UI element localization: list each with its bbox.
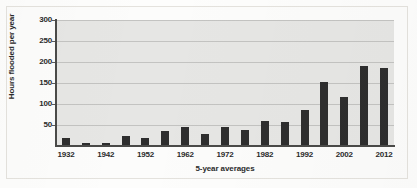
gridline-300 bbox=[56, 20, 394, 21]
gridline-200 bbox=[56, 62, 394, 63]
bar-1972 bbox=[221, 127, 229, 146]
x-tick-label-1932: 1932 bbox=[51, 150, 81, 159]
bar-1992 bbox=[301, 110, 309, 146]
bar-1987 bbox=[281, 122, 289, 146]
x-tick-label-1972: 1972 bbox=[210, 150, 240, 159]
x-tick-label-2002: 2002 bbox=[329, 150, 359, 159]
y-axis-ticks: 30025020015010050 bbox=[0, 0, 52, 188]
bar-1962 bbox=[181, 127, 189, 146]
x-tick-label-1992: 1992 bbox=[290, 150, 320, 159]
x-tick-label-1962: 1962 bbox=[170, 150, 200, 159]
x-axis-title: 5-year averages bbox=[56, 164, 394, 173]
plot-area bbox=[56, 20, 394, 146]
y-axis-line bbox=[55, 19, 57, 147]
y-tick-label-50: 50 bbox=[6, 121, 52, 129]
gridline-150 bbox=[56, 83, 394, 84]
x-axis-line bbox=[55, 145, 395, 147]
bar-2012 bbox=[380, 68, 388, 146]
x-tick-label-2012: 2012 bbox=[369, 150, 399, 159]
bar-2007 bbox=[360, 66, 368, 146]
y-tick-label-100: 100 bbox=[6, 100, 52, 108]
x-tick-label-1942: 1942 bbox=[91, 150, 121, 159]
bar-1957 bbox=[161, 131, 169, 146]
figure-container: Hours flooded per year 30025020015010050… bbox=[0, 0, 417, 188]
bar-1997 bbox=[320, 82, 328, 146]
y-tick-label-300: 300 bbox=[6, 16, 52, 24]
y-tick-label-250: 250 bbox=[6, 37, 52, 45]
bar-1977 bbox=[241, 130, 249, 146]
y-tick-label-200: 200 bbox=[6, 58, 52, 66]
y-tick-label-150: 150 bbox=[6, 79, 52, 87]
gridline-250 bbox=[56, 41, 394, 42]
x-tick-label-1952: 1952 bbox=[130, 150, 160, 159]
x-tick-label-1982: 1982 bbox=[250, 150, 280, 159]
bar-2002 bbox=[340, 97, 348, 146]
bar-1982 bbox=[261, 121, 269, 146]
